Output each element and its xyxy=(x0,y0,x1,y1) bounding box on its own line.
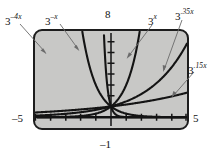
curve-label-3-neg4x: 3–4x xyxy=(5,12,22,28)
leader-3-neg4x xyxy=(20,24,47,54)
curve-label-exponent: –x xyxy=(51,12,58,21)
curve-label-3-x: 3x xyxy=(148,12,157,28)
leader-3-p35x xyxy=(163,20,182,72)
curve-label-3-p15x: 3.15x xyxy=(188,61,207,77)
leader-3-negx xyxy=(60,24,79,51)
curve-label-exponent: .15x xyxy=(194,61,207,70)
curve-label-exponent: .35x xyxy=(181,7,194,16)
leader-lines xyxy=(0,0,222,160)
window-label-xmin: –5 xyxy=(12,112,23,124)
curve-label-exponent: –4x xyxy=(11,12,22,21)
window-label-xmax: 5 xyxy=(193,112,199,124)
curve-label-exponent: x xyxy=(154,12,157,21)
window-label-ymax: 8 xyxy=(105,8,111,20)
curve-label-3-negx: 3–x xyxy=(45,12,58,28)
leader-3-x xyxy=(127,25,152,59)
exponential-functions-calculator-figure: 3–4x 3–x 3x 3.35x 3.15x 8 –5 5 –1 xyxy=(0,0,222,160)
curve-label-3-p35x: 3.35x xyxy=(175,7,194,23)
window-label-ymin: –1 xyxy=(100,138,111,150)
